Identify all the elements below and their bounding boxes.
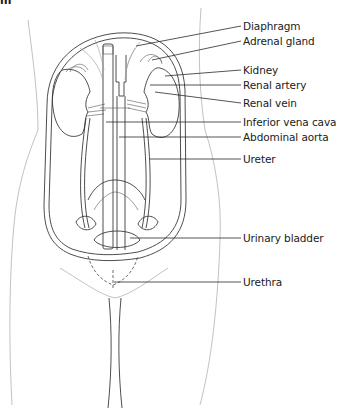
ureters xyxy=(81,118,151,228)
label-abdominal-aorta: Abdominal aorta xyxy=(243,131,329,143)
label-diaphragm: Diaphragm xyxy=(243,20,301,32)
label-renal-vein: Renal vein xyxy=(243,97,297,109)
label-ureter: Ureter xyxy=(243,153,276,165)
label-adrenal-gland: Adrenal gland xyxy=(243,35,315,47)
label-renal-artery: Renal artery xyxy=(243,79,306,91)
label-inferior-vena-cava: Inferior vena cava xyxy=(243,116,336,128)
great-vessels xyxy=(80,40,140,250)
urethra xyxy=(88,256,138,290)
label-urethra: Urethra xyxy=(243,276,282,288)
left-kidney xyxy=(52,67,106,137)
label-urinary-bladder: Urinary bladder xyxy=(243,232,324,244)
body-outline xyxy=(10,8,220,408)
abdominal-cavity xyxy=(44,33,186,261)
anatomy-illustration xyxy=(0,0,343,410)
label-kidney: Kidney xyxy=(243,64,278,76)
right-kidney xyxy=(127,55,179,138)
urinary-system-diagram: m xyxy=(0,0,343,410)
